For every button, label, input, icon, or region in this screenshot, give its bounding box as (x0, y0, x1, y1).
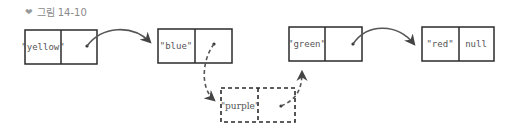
arrow-blue-to-purple (204, 44, 214, 100)
node-value: "red" (426, 39, 453, 49)
node-next-null: null (465, 39, 487, 49)
node-value: "yellow" (21, 42, 64, 52)
linked-list-diagram: "yellow" "blue" "purple" "green" "red" n… (0, 0, 516, 134)
node-value: "blue" (160, 41, 193, 51)
node-yellow: "yellow" (21, 30, 97, 64)
node-value: "green" (288, 39, 326, 49)
node-value: "purple" (221, 101, 259, 111)
node-green: "green" (288, 27, 362, 61)
arrow-purple-to-green (281, 72, 302, 106)
node-red: "red" null (422, 27, 494, 61)
node-blue: "blue" (158, 29, 232, 63)
